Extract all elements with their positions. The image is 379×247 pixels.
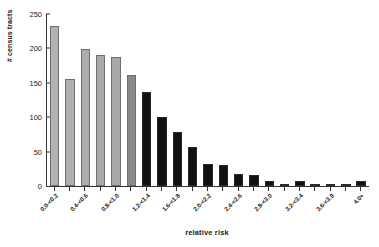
x-label-slot: 2.4-<2.6 xyxy=(230,190,245,226)
bar-slot xyxy=(62,14,77,186)
bar-slot xyxy=(185,14,200,186)
x-label-slot xyxy=(337,190,352,226)
bar-slot xyxy=(308,14,323,186)
bar xyxy=(310,184,320,186)
bar-slot xyxy=(262,14,277,186)
bar xyxy=(326,184,336,186)
y-tick-label: 200 xyxy=(29,44,42,53)
x-label-slot: 3.6-<3.9 xyxy=(322,190,337,226)
bar-slot xyxy=(231,14,246,186)
bar xyxy=(219,165,229,186)
bar xyxy=(188,147,198,186)
bar-slot xyxy=(277,14,292,186)
x-label-slot: 0.8-<1.0 xyxy=(107,190,122,226)
bar xyxy=(265,181,275,187)
bar xyxy=(173,132,183,186)
y-axis-title: # census tracts xyxy=(6,0,13,62)
y-tick-label: 100 xyxy=(29,113,42,122)
bar xyxy=(234,174,244,186)
histogram-figure: # census tracts 050100150200250 0.0-<0.2… xyxy=(0,0,379,247)
x-label-slot: 3.2-<3.4 xyxy=(291,190,306,226)
bar-slot xyxy=(139,14,154,186)
x-axis-tick-labels: 0.0-<0.20.4-<0.60.8-<1.01.2-<1.41.6-<1.8… xyxy=(46,190,368,226)
bar xyxy=(341,184,351,186)
bar xyxy=(280,184,290,186)
bar-slot xyxy=(338,14,353,186)
bar-slot xyxy=(93,14,108,186)
bar-slot xyxy=(354,14,369,186)
x-label-slot: 2.0-<2.2 xyxy=(199,190,214,226)
y-tick-label: 150 xyxy=(29,78,42,87)
x-tick-label: 4.0+ xyxy=(352,192,365,205)
y-tick-label: 250 xyxy=(29,10,42,19)
bar xyxy=(203,164,213,186)
x-tick-label: 0.0-<0.2 xyxy=(38,192,59,213)
x-label-slot: 0.0-<0.2 xyxy=(46,190,61,226)
bar xyxy=(249,175,259,186)
x-label-slot: 1.6-<1.8 xyxy=(169,190,184,226)
bar xyxy=(356,181,366,186)
bar-slot xyxy=(323,14,338,186)
y-axis-tick-labels: 050100150200250 xyxy=(22,14,46,186)
bar-slot xyxy=(292,14,307,186)
bar-slot xyxy=(124,14,139,186)
x-label-slot: 1.2-<1.4 xyxy=(138,190,153,226)
x-label-slot: 0.4-<0.6 xyxy=(77,190,92,226)
bar xyxy=(50,26,60,186)
y-tick-label: 50 xyxy=(34,147,42,156)
x-label-slot: 2.8-<3.0 xyxy=(261,190,276,226)
bar-slot xyxy=(246,14,261,186)
bar-slot xyxy=(47,14,62,186)
bar xyxy=(96,55,106,186)
bar-slot xyxy=(108,14,123,186)
bar-slot xyxy=(78,14,93,186)
plot-area xyxy=(46,14,369,187)
bar xyxy=(65,79,75,186)
bar-slot xyxy=(200,14,215,186)
x-axis-title: relative risk xyxy=(46,228,368,237)
bar-slot xyxy=(216,14,231,186)
bar xyxy=(81,49,91,186)
bar xyxy=(142,92,152,186)
bar-slot xyxy=(170,14,185,186)
bar xyxy=(157,117,167,186)
x-label-slot: 4.0+ xyxy=(353,190,368,226)
bar-slot xyxy=(154,14,169,186)
bar xyxy=(295,181,305,186)
bar xyxy=(127,75,137,186)
y-tick-label: 0 xyxy=(38,182,42,191)
bar xyxy=(111,57,121,186)
bar-series xyxy=(47,14,369,186)
